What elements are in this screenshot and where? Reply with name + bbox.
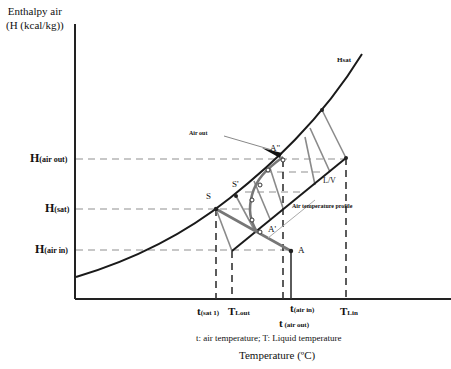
hsat-label: Hsat bbox=[337, 57, 351, 64]
y-axis-title-line1: Enthalpy air bbox=[6, 4, 64, 18]
ytick-h-air-out: H(air out) bbox=[30, 152, 67, 164]
label-a-prime: A' bbox=[268, 225, 276, 234]
temperature-legend: t: air temperature; T: Liquid temperatur… bbox=[196, 334, 342, 343]
ytick-h-sat: H(sat) bbox=[45, 202, 69, 214]
x-axis-title: Temperature (ºC) bbox=[239, 350, 315, 361]
xtick-t-sat1: t(sat 1) bbox=[197, 306, 219, 317]
enthalpy-diagram bbox=[0, 0, 451, 369]
xtick-t-lout: TLout bbox=[228, 306, 250, 317]
xtick-t-air-in: t(air in) bbox=[290, 303, 314, 314]
point-curve-top bbox=[320, 108, 324, 112]
point-a bbox=[289, 249, 293, 253]
y-axis-title: Enthalpy air (H (kcal/kg)) bbox=[6, 4, 64, 32]
air-out-leader bbox=[224, 136, 272, 150]
label-a-double-prime: A" bbox=[270, 144, 280, 153]
label-s: S bbox=[206, 192, 211, 201]
air-temp-profile-annotation: Air temperature profile bbox=[292, 203, 352, 209]
label-a: A bbox=[298, 246, 305, 255]
point-lin bbox=[344, 156, 348, 160]
point-s-prime bbox=[234, 194, 238, 198]
label-lv: L/V bbox=[323, 177, 336, 185]
saturation-curve bbox=[76, 54, 362, 277]
y-axis-title-line2: (H (kcal/kg)) bbox=[6, 18, 64, 32]
label-s-prime: S' bbox=[232, 180, 239, 189]
xtick-t-lin: TLin bbox=[340, 306, 358, 317]
xtick-t-air-out: t (air out) bbox=[279, 318, 309, 329]
point-s bbox=[214, 207, 218, 211]
air-out-annotation: Air out bbox=[189, 130, 207, 136]
ytick-h-air-in: H(air in) bbox=[35, 243, 68, 255]
